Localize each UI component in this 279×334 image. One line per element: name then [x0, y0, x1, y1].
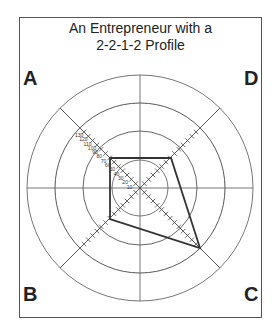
radar-diagram: 102030405060708090100110120130 — [0, 0, 279, 334]
svg-text:130: 130 — [75, 132, 84, 138]
